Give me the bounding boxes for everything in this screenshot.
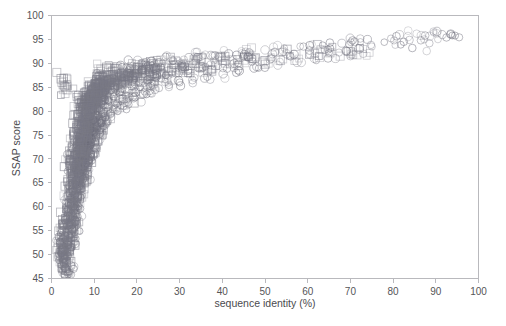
y-tick-label: 55: [32, 225, 44, 236]
y-tick-label: 50: [32, 249, 44, 260]
y-tick-label: 65: [32, 177, 44, 188]
y-tick-label: 45: [32, 273, 44, 284]
y-tick-label: 90: [32, 58, 44, 69]
x-tick-label: 10: [89, 286, 101, 297]
y-axis-title: SSAP score: [10, 120, 22, 177]
x-tick-label: 0: [49, 286, 55, 297]
y-tick-label: 85: [32, 82, 44, 93]
x-tick-label: 80: [388, 286, 400, 297]
x-tick-label: 50: [259, 286, 271, 297]
x-tick-label: 40: [217, 286, 229, 297]
y-tick-label: 75: [32, 130, 44, 141]
x-axis-title: sequence identity (%): [215, 297, 316, 309]
y-tick-label: 70: [32, 154, 44, 165]
scatter-plot-figure: 0102030405060708090100455055606570758085…: [0, 0, 506, 326]
x-tick-label: 70: [345, 286, 357, 297]
y-tick-label: 60: [32, 201, 44, 212]
y-tick-label: 95: [32, 34, 44, 45]
x-tick-label: 90: [430, 286, 442, 297]
y-tick-label: 100: [27, 10, 44, 21]
x-tick-label: 30: [174, 286, 186, 297]
x-tick-label: 60: [302, 286, 314, 297]
y-tick-label: 80: [32, 106, 44, 117]
x-tick-label: 20: [131, 286, 143, 297]
x-tick-label: 100: [470, 286, 487, 297]
